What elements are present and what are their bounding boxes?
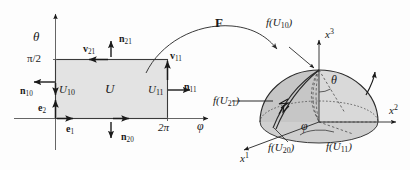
hemisphere-group [232, 40, 396, 150]
fU10-label: f(U10) [266, 17, 292, 30]
e2-label: e2 [38, 103, 46, 115]
fU11-label: f(U11) [326, 141, 352, 154]
e1-label: e1 [66, 124, 74, 136]
fU21-label: f(U21) [213, 95, 239, 108]
n10-label: n10 [20, 86, 33, 98]
figure-canvas: θ π/2 2π φ U U10 U11 n10 n11 n20 n21 v11… [0, 0, 410, 170]
fU11-orientation-arrow [366, 72, 375, 95]
v21-label: v21 [83, 44, 95, 56]
F-map-label: F [215, 16, 223, 29]
n21-label: n21 [119, 34, 132, 46]
n20-label: n20 [121, 132, 134, 144]
theta-axis-label: θ [33, 30, 39, 43]
U11-label: U11 [148, 84, 164, 97]
x2-axis-label: x2 [389, 104, 398, 116]
phi-axis-label: φ [197, 120, 204, 132]
v11-label: v11 [170, 51, 182, 63]
theta-angle-label: θ [331, 74, 337, 86]
theta-tick-label: π/2 [27, 53, 41, 64]
phi-tick-label: 2π [158, 122, 169, 133]
fU20-label: f(U20) [268, 142, 294, 155]
x3-axis-label: x3 [325, 28, 334, 40]
region-U-label: U [105, 82, 114, 95]
U10-label: U10 [59, 84, 75, 97]
n11-label: n11 [184, 82, 196, 94]
phi-angle-label: φ [301, 120, 308, 132]
x1-axis-label: x1 [240, 152, 249, 164]
fU10-leader-line [289, 47, 314, 68]
